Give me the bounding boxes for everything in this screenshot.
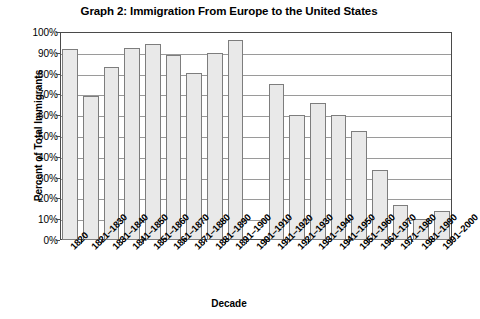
bar[interactable] — [124, 48, 140, 240]
bar-slot — [246, 32, 267, 240]
y-tick-mark — [56, 219, 60, 220]
chart-title: Graph 2: Immigration From Europe to the … — [0, 5, 458, 17]
y-tick-label: 50% — [2, 131, 58, 142]
bar-slot — [225, 32, 246, 240]
bar-slot — [122, 32, 143, 240]
y-tick-label: 0% — [2, 235, 58, 246]
y-tick-label: 100% — [2, 27, 58, 38]
y-tick-mark — [56, 94, 60, 95]
bar-slot — [204, 32, 225, 240]
bar[interactable] — [207, 53, 223, 240]
bar-slot — [349, 32, 370, 240]
y-tick-mark — [56, 157, 60, 158]
bar[interactable] — [62, 49, 78, 240]
bar-slot — [308, 32, 329, 240]
y-tick-label: 80% — [2, 68, 58, 79]
bar-slot — [184, 32, 205, 240]
bar-slot — [328, 32, 349, 240]
bar-slot — [101, 32, 122, 240]
bar-slot — [369, 32, 390, 240]
y-tick-mark — [56, 240, 60, 241]
y-tick-label: 90% — [2, 47, 58, 58]
y-tick-label: 30% — [2, 172, 58, 183]
bar-slot — [411, 32, 432, 240]
y-tick-mark — [56, 32, 60, 33]
bar-slot — [60, 32, 81, 240]
bar[interactable] — [83, 96, 99, 240]
y-tick-mark — [56, 136, 60, 137]
x-axis-tick-labels: 18201821–18301831–18401841–18501851–1860… — [60, 244, 452, 292]
y-tick-label: 10% — [2, 214, 58, 225]
y-tick-mark — [56, 53, 60, 54]
bar[interactable] — [145, 44, 161, 240]
bar-slot — [81, 32, 102, 240]
bar-slot — [390, 32, 411, 240]
bar-slot — [431, 32, 452, 240]
y-tick-label: 40% — [2, 151, 58, 162]
bar-slot — [266, 32, 287, 240]
bar-slot — [287, 32, 308, 240]
bar-series — [60, 32, 452, 240]
y-axis-tick-labels: 100%90%80%70%60%50%40%30%20%10%0% — [0, 32, 58, 240]
bar[interactable] — [228, 40, 244, 240]
bar-slot — [163, 32, 184, 240]
y-tick-mark — [56, 198, 60, 199]
y-tick-mark — [56, 115, 60, 116]
y-tick-label: 60% — [2, 110, 58, 121]
y-tick-label: 20% — [2, 193, 58, 204]
bar[interactable] — [166, 55, 182, 240]
y-tick-label: 70% — [2, 89, 58, 100]
x-axis-title: Decade — [0, 298, 458, 309]
y-tick-mark — [56, 178, 60, 179]
bar-slot — [143, 32, 164, 240]
y-tick-mark — [56, 74, 60, 75]
